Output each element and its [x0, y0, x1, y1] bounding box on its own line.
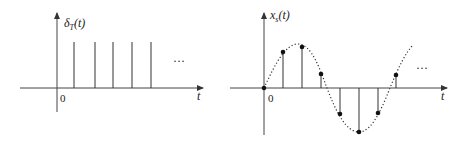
sample-point-3 [319, 72, 324, 77]
left-x-label: t [197, 89, 201, 103]
sample-stems [283, 47, 396, 132]
sampled-signal-plot: xs(t) 0 t ··· [230, 8, 447, 135]
sample-point-0 [262, 86, 267, 91]
impulse-train-plot: δT(t) 0 t ··· [20, 13, 203, 112]
sample-point-6 [376, 111, 381, 116]
sample-point-7 [394, 73, 399, 78]
right-origin-label: 0 [268, 92, 274, 104]
left-origin-label: 0 [60, 92, 66, 104]
right-y-label: xs(t) [269, 8, 290, 24]
sample-point-4 [338, 112, 343, 117]
sample-point-1 [281, 50, 286, 55]
impulses [74, 42, 151, 88]
left-y-label: δT(t) [64, 16, 85, 32]
left-ellipsis: ··· [173, 54, 185, 68]
right-x-label: t [441, 89, 445, 103]
right-ellipsis: ··· [416, 61, 428, 75]
sampling-diagram: δT(t) 0 t ··· xs(t) 0 t [0, 0, 461, 144]
sample-point-2 [300, 45, 305, 50]
sample-point-5 [357, 130, 362, 135]
